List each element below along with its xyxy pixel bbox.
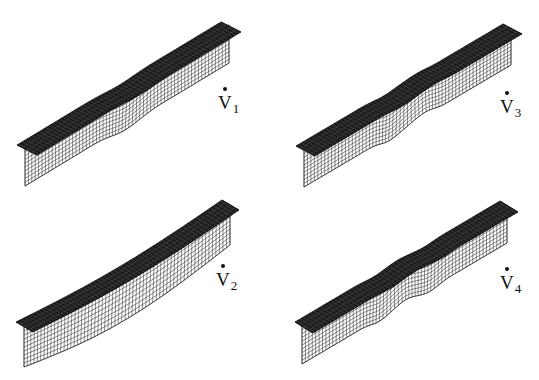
mesh-v1: [17, 22, 241, 186]
figure-canvas: V1 V3 V2 V4: [0, 0, 539, 380]
mesh-v2: [16, 200, 239, 367]
mode-label-v2: V2: [216, 270, 237, 292]
mode-label-v4: V4: [500, 273, 521, 295]
mesh-v3: [296, 24, 522, 187]
mode-label-v3: V3: [500, 97, 521, 119]
mesh-drawing: [0, 0, 539, 380]
mesh-v4: [295, 201, 518, 364]
mode-label-v1: V1: [218, 93, 239, 115]
